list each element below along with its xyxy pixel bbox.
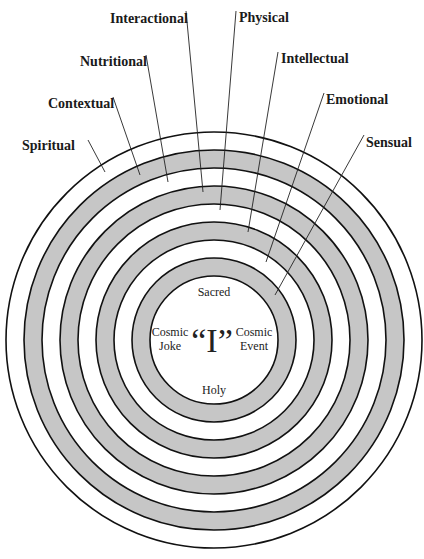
label-emotional: Emotional bbox=[326, 92, 388, 107]
label-contextual: Contextual bbox=[48, 96, 114, 111]
label-physical: Physical bbox=[239, 10, 289, 25]
label-intellectual: Intellectual bbox=[281, 51, 349, 66]
center-label-cosmic-joke-2: Joke bbox=[159, 339, 181, 353]
center-label-holy: Holy bbox=[202, 383, 226, 397]
center-label-cosmic-event-2: Event bbox=[240, 339, 269, 353]
center-label-cosmic-joke-1: Cosmic bbox=[152, 325, 189, 339]
leader-line-spiritual bbox=[88, 140, 105, 172]
label-nutritional: Nutritional bbox=[80, 54, 147, 69]
label-spiritual: Spiritual bbox=[22, 138, 75, 153]
label-interactional: Interactional bbox=[110, 11, 188, 26]
center-label-i: “I” bbox=[191, 322, 233, 359]
center-label-sacred: Sacred bbox=[198, 285, 231, 299]
concentric-rings-diagram: SpiritualContextualNutritionalInteractio… bbox=[0, 0, 424, 559]
center-label-cosmic-event-1: Cosmic bbox=[236, 325, 273, 339]
label-sensual: Sensual bbox=[366, 135, 412, 150]
